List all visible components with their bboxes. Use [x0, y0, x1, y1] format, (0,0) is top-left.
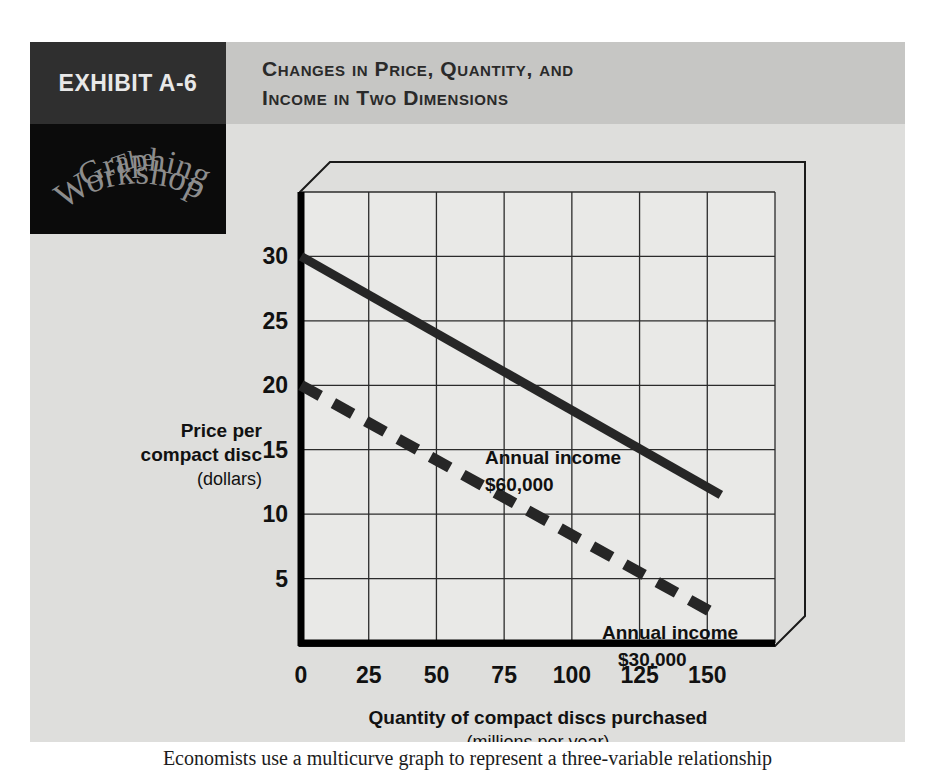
- annotation-30000-line1: Annual income: [602, 622, 738, 643]
- x-tick-label: 0: [295, 662, 308, 688]
- exhibit-tag: EXHIBIT A-6: [30, 42, 226, 124]
- annotation-60000-line2: $60,000: [485, 474, 554, 495]
- y-axis-label-line1: Price per: [181, 420, 263, 441]
- y-tick-label: 20: [262, 372, 288, 398]
- x-axis-label: Quantity of compact discs purchased (mil…: [369, 707, 708, 742]
- y-tick-label: 10: [262, 501, 288, 527]
- y-tick-label: 30: [262, 243, 288, 269]
- exhibit-header-bar: EXHIBIT A-6 Changes in Price, Quantity, …: [30, 42, 905, 124]
- annotation-60000-line1: Annual income: [485, 447, 621, 468]
- multicurve-graph: 51015202530 0255075100125150 Annual inco…: [30, 124, 905, 742]
- exhibit-caption: Economists use a multicurve graph to rep…: [30, 745, 905, 771]
- y-tick-label: 25: [262, 308, 288, 334]
- chart-area: 51015202530 0255075100125150 Annual inco…: [30, 124, 905, 742]
- y-axis-label: Price per compact disc (dollars): [141, 420, 263, 489]
- y-tick-label: 15: [262, 437, 288, 463]
- annotation-30000-line2: $30,000: [618, 649, 687, 670]
- x-tick-label: 150: [688, 662, 726, 688]
- x-axis-label-main: Quantity of compact discs purchased: [369, 707, 708, 728]
- exhibit-title-line1: Changes in Price, Quantity, and: [262, 54, 882, 83]
- exhibit-panel: EXHIBIT A-6 Changes in Price, Quantity, …: [30, 42, 905, 742]
- exhibit-title-line2: Income in Two Dimensions: [262, 83, 882, 112]
- exhibit-tag-label: EXHIBIT A-6: [59, 70, 198, 97]
- y-tick-labels: 51015202530: [262, 243, 288, 591]
- x-tick-label: 50: [424, 662, 450, 688]
- exhibit-title: Changes in Price, Quantity, and Income i…: [262, 54, 882, 112]
- x-tick-label: 100: [553, 662, 591, 688]
- x-tick-label: 75: [491, 662, 517, 688]
- y-axis-label-line2: compact disc: [141, 444, 263, 465]
- y-axis-label-units: (dollars): [197, 469, 262, 489]
- exhibit-page: EXHIBIT A-6 Changes in Price, Quantity, …: [0, 0, 933, 783]
- y-tick-label: 5: [275, 566, 288, 592]
- x-tick-label: 25: [356, 662, 382, 688]
- x-axis-label-units: (millions per year): [466, 732, 609, 742]
